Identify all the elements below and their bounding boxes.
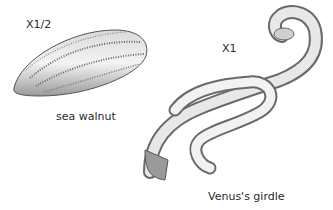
sea-walnut-drawing <box>14 30 147 96</box>
illustration-canvas <box>0 0 333 210</box>
venus-girdle-drawing <box>145 12 316 180</box>
sea-walnut-scale-label: X1/2 <box>26 18 51 31</box>
venus-girdle-scale-label: X1 <box>222 42 237 55</box>
venus-girdle-caption: Venus's girdle <box>208 190 285 203</box>
sea-walnut-caption: sea walnut <box>56 110 116 123</box>
